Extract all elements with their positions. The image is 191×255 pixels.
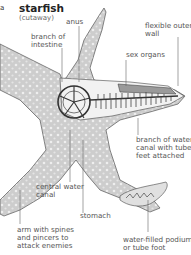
- label-line: attack enemies: [17, 242, 74, 250]
- label-water-filled-podium: water-filled podium or tube foot: [123, 236, 191, 252]
- label-branch-of-intestine: branch of intestine: [31, 33, 65, 49]
- diagram-title: starfish: [19, 2, 64, 14]
- label-line: or tube foot: [123, 244, 191, 252]
- label-line: canal: [36, 191, 84, 199]
- label-anus: anus: [66, 18, 83, 26]
- label-stomach: stomach: [80, 212, 111, 220]
- label-line: intestine: [31, 41, 65, 49]
- label-central-water-canal: central water canal: [36, 183, 84, 199]
- diagram-subtitle: (cutaway): [19, 14, 54, 22]
- starfish-diagram: a starfish (cutaway) anus branch of inte…: [0, 0, 191, 255]
- label-line: feet attached: [136, 152, 191, 160]
- corner-mark: a: [0, 4, 4, 12]
- label-flexible-outer-wall: flexible outer wall: [145, 22, 191, 38]
- label-sex-organs: sex organs: [126, 51, 165, 59]
- label-branch-of-water-canal: branch of water canal with tube feet att…: [136, 136, 191, 161]
- label-line: wall: [145, 30, 191, 38]
- cutaway-interior: [58, 78, 184, 120]
- label-arm-with-spines: arm with spines and pincers to attack en…: [17, 226, 74, 251]
